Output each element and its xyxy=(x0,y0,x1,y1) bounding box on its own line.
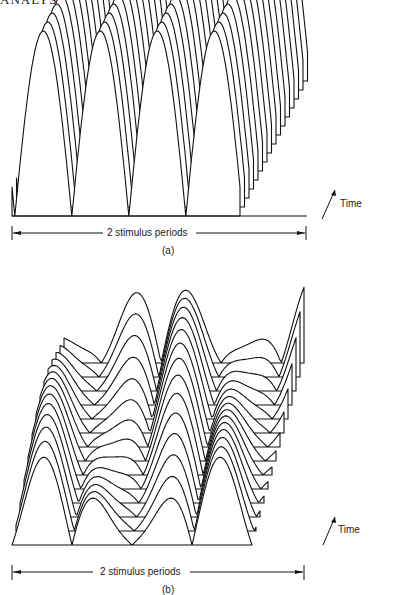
trace xyxy=(16,441,256,531)
time-arrow-icon xyxy=(322,190,336,219)
span-label-a: 2 stimulus periods xyxy=(107,227,188,238)
trace xyxy=(48,330,288,420)
trace xyxy=(20,427,260,517)
time-label-a: Time xyxy=(340,198,362,209)
trace xyxy=(44,343,284,433)
trace xyxy=(64,287,304,363)
trace xyxy=(28,404,268,489)
trace xyxy=(60,298,300,377)
waterfall-plot-a xyxy=(0,0,397,260)
trace xyxy=(12,457,252,545)
trace xyxy=(56,307,296,391)
trace xyxy=(52,318,292,405)
time-label-b: Time xyxy=(338,524,360,535)
figure-caption-b: (b) xyxy=(162,584,174,595)
trace xyxy=(32,393,272,475)
span-label-b: 2 stimulus periods xyxy=(100,566,181,577)
trace xyxy=(36,375,276,461)
figure-caption-a: (a) xyxy=(162,245,174,256)
trace xyxy=(40,358,280,447)
trace xyxy=(24,415,264,503)
time-arrow-icon xyxy=(323,517,336,545)
